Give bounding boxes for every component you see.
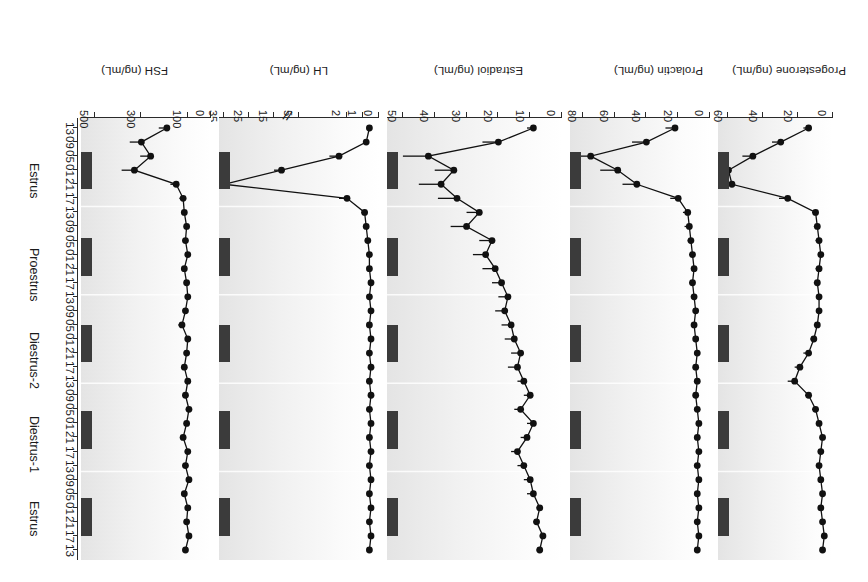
data-point xyxy=(183,518,190,525)
data-point xyxy=(368,364,375,371)
data-point xyxy=(805,350,812,357)
night-period-bar xyxy=(570,498,581,536)
axis-tick-label: 30 xyxy=(450,110,462,122)
series-line-progesterone xyxy=(728,128,824,550)
data-point xyxy=(182,462,189,469)
data-point xyxy=(633,181,640,188)
data-point xyxy=(517,350,524,357)
time-axis-hour-label: 01 xyxy=(64,417,76,430)
axis-tick-label: 1 xyxy=(347,110,359,116)
data-point xyxy=(186,533,193,540)
night-period-bar xyxy=(387,498,398,536)
data-point xyxy=(749,153,756,160)
data-point xyxy=(368,307,375,314)
data-point xyxy=(694,378,701,385)
axis-tick xyxy=(709,112,710,118)
axis-tick xyxy=(346,112,347,118)
data-point xyxy=(672,125,679,132)
time-axis: 1317210105091317210105091317210105091317… xyxy=(0,118,78,560)
time-axis-hour-label: 05 xyxy=(64,235,76,248)
time-axis-hour-label: 21 xyxy=(64,263,76,276)
data-point xyxy=(163,125,170,132)
night-period-bar xyxy=(81,498,92,536)
data-point xyxy=(361,209,368,216)
data-point xyxy=(695,448,702,455)
axis-tick xyxy=(832,112,833,118)
data-point xyxy=(368,533,375,540)
time-axis-hour-label: 05 xyxy=(64,403,76,416)
data-point xyxy=(524,434,531,441)
night-period-bar xyxy=(81,152,92,190)
data-point xyxy=(692,392,699,399)
hormone-profile-figure: Progesterone (ng/mL) Prolactin (ng/mL) E… xyxy=(0,0,868,582)
data-point xyxy=(184,448,191,455)
data-point xyxy=(784,195,791,202)
data-point xyxy=(498,279,505,286)
data-point xyxy=(514,364,521,371)
data-point xyxy=(692,364,699,371)
data-point xyxy=(692,336,699,343)
data-point xyxy=(179,322,186,329)
time-axis-hour-label: 05 xyxy=(64,150,76,163)
data-point xyxy=(425,153,432,160)
data-point xyxy=(366,293,373,300)
night-period-bar xyxy=(570,238,581,276)
value-axis-estradiol: 01020304050 xyxy=(387,84,562,118)
axis-tick-label: 15 xyxy=(258,110,270,122)
data-point xyxy=(180,434,187,441)
night-period-bar xyxy=(219,325,230,363)
data-point xyxy=(517,406,524,413)
data-point xyxy=(812,406,819,413)
axis-tick xyxy=(497,112,498,118)
axis-tick-label: 0 xyxy=(817,110,829,116)
axis-line xyxy=(81,117,211,118)
data-point xyxy=(817,476,824,483)
axis-tick xyxy=(223,112,224,118)
time-axis-hour-label: 21 xyxy=(64,347,76,360)
data-point xyxy=(527,476,534,483)
estrous-stage-label: Estrus xyxy=(27,501,41,536)
data-point xyxy=(363,139,370,146)
data-point xyxy=(691,322,698,329)
data-point xyxy=(520,462,527,469)
data-point xyxy=(695,420,702,427)
data-point xyxy=(814,279,821,286)
data-point xyxy=(505,293,512,300)
axis-tick-label: 40 xyxy=(747,110,759,122)
axis-tick xyxy=(582,112,583,118)
axis-title-progesterone: Progesterone (ng/mL) xyxy=(732,65,846,77)
data-point xyxy=(819,434,826,441)
data-point xyxy=(816,462,823,469)
data-point xyxy=(183,223,190,230)
data-point xyxy=(366,462,373,469)
axis-tick-label: 50 xyxy=(386,110,398,122)
axis-tick xyxy=(362,112,363,118)
data-point xyxy=(454,195,461,202)
data-point xyxy=(184,251,191,258)
data-point xyxy=(131,167,138,174)
data-point xyxy=(514,448,521,455)
night-period-bar xyxy=(81,412,92,450)
axis-tick xyxy=(561,112,562,118)
data-point xyxy=(183,350,190,357)
data-point xyxy=(181,364,188,371)
axis-tick-label: 0 xyxy=(546,110,558,116)
axis-tick-label: 20 xyxy=(482,110,494,122)
data-point xyxy=(530,125,537,132)
data-point xyxy=(463,223,470,230)
data-point xyxy=(814,223,821,230)
time-axis-hour-label: 21 xyxy=(64,516,76,529)
data-point xyxy=(814,322,821,329)
time-axis-hour-label: 05 xyxy=(64,319,76,332)
data-point xyxy=(181,209,188,216)
value-axis-fsh: 0100300500 xyxy=(81,84,211,118)
data-point xyxy=(368,392,375,399)
night-period-bar xyxy=(219,152,230,190)
data-point xyxy=(476,209,483,216)
series-lh xyxy=(219,118,379,560)
time-axis-hour-label: 09 xyxy=(64,220,76,233)
axis-tick xyxy=(187,112,188,118)
data-point xyxy=(501,307,508,314)
data-point xyxy=(817,251,824,258)
axis-tick xyxy=(140,112,141,118)
